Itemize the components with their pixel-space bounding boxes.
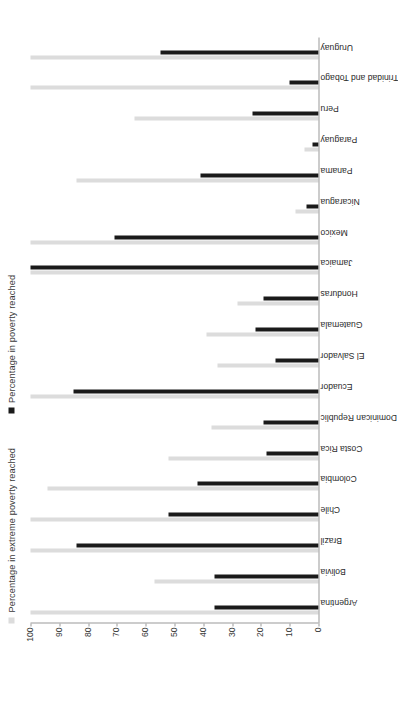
legend-swatch-poverty [8, 407, 14, 413]
value-tick-mark-30 [232, 623, 233, 626]
bar-poverty [197, 481, 318, 485]
category-label: Guatemala [320, 319, 362, 329]
value-tick-mark-70 [116, 623, 117, 626]
value-tick-10: 10 [283, 627, 293, 649]
bar-poverty [252, 111, 318, 115]
bar-group [30, 504, 318, 521]
bar-group [30, 42, 318, 59]
chart-legend: Percentage in extreme poverty reachedPer… [0, 0, 22, 709]
bar-group [30, 72, 318, 89]
category-label: El Salvador [320, 350, 364, 360]
category-label: Nicaragua [320, 196, 359, 206]
bar-poverty [266, 451, 318, 455]
value-tick-100: 100 [24, 627, 34, 649]
bar-poverty [114, 235, 318, 239]
value-tick-70: 70 [110, 627, 120, 649]
value-tick-50: 50 [168, 627, 178, 649]
bar-group [30, 103, 318, 120]
legend-label-poverty: Percentage in poverty reached [6, 274, 16, 402]
bar-group [30, 319, 318, 336]
bar-group [30, 473, 318, 490]
category-label: Colombia [320, 473, 356, 483]
bar-extreme-poverty [30, 55, 318, 59]
bar-extreme-poverty [154, 579, 318, 583]
bar-extreme-poverty [30, 548, 318, 552]
bar-poverty [312, 142, 318, 146]
category-label: Dominican Republic [320, 412, 396, 422]
bar-poverty [255, 327, 318, 331]
bar-poverty [275, 358, 318, 362]
bar-extreme-poverty [30, 240, 318, 244]
category-label: Mexico [320, 227, 347, 237]
value-tick-0: 0 [312, 627, 322, 649]
bar-poverty [200, 173, 318, 177]
legend-item-extreme: Percentage in extreme poverty reached [6, 447, 16, 623]
value-tick-mark-90 [59, 623, 60, 626]
category-label: Panama [320, 165, 352, 175]
category-label: Chile [320, 504, 340, 514]
bar-extreme-poverty [304, 147, 318, 151]
category-label: Argentina [320, 597, 357, 607]
bar-group [30, 196, 318, 213]
bar-poverty [73, 389, 318, 393]
bar-extreme-poverty [76, 178, 318, 182]
value-tick-mark-80 [88, 623, 89, 626]
value-tick-80: 80 [82, 627, 92, 649]
value-tick-mark-50 [174, 623, 175, 626]
bar-extreme-poverty [30, 610, 318, 614]
value-tick-mark-40 [203, 623, 204, 626]
value-tick-20: 20 [254, 627, 264, 649]
bar-extreme-poverty [30, 270, 318, 274]
category-label: Bolivia [320, 566, 345, 576]
bar-extreme-poverty [47, 486, 318, 490]
bar-poverty [306, 204, 318, 208]
category-label: Costa Rica [320, 443, 362, 453]
bar-group [30, 258, 318, 275]
bar-poverty [30, 265, 318, 269]
value-tick-30: 30 [226, 627, 236, 649]
bar-poverty [289, 80, 318, 84]
category-axis-line [318, 37, 319, 623]
bar-group [30, 165, 318, 182]
bar-group [30, 350, 318, 367]
value-tick-mark-60 [145, 623, 146, 626]
category-label: Honduras [320, 288, 357, 298]
category-label: Uruguay [320, 42, 352, 52]
value-tick-mark-10 [289, 623, 290, 626]
bar-extreme-poverty [206, 332, 318, 336]
value-tick-60: 60 [139, 627, 149, 649]
bar-extreme-poverty [217, 363, 318, 367]
bar-group [30, 535, 318, 552]
legend-item-poverty: Percentage in poverty reached [6, 274, 16, 413]
category-label: Jamaica [320, 257, 352, 267]
legend-swatch-extreme [8, 617, 14, 623]
bar-group [30, 381, 318, 398]
legend-label-extreme: Percentage in extreme poverty reached [6, 447, 16, 612]
category-label: Brazil [320, 535, 342, 545]
bar-group [30, 412, 318, 429]
value-tick-mark-100 [30, 623, 31, 626]
category-label: Trinidad and Tobago [320, 72, 398, 82]
category-label: Paraguay [320, 134, 357, 144]
value-tick-90: 90 [53, 627, 63, 649]
bar-poverty [214, 574, 318, 578]
bar-extreme-poverty [237, 301, 318, 305]
bar-extreme-poverty [168, 456, 318, 460]
plot-area: 0102030405060708090100 [30, 37, 318, 623]
bar-extreme-poverty [30, 85, 318, 89]
bar-extreme-poverty [30, 517, 318, 521]
bar-group [30, 597, 318, 614]
bar-poverty [168, 512, 318, 516]
bar-extreme-poverty [295, 209, 318, 213]
bar-group [30, 443, 318, 460]
bar-poverty [214, 605, 318, 609]
bar-poverty [160, 50, 318, 54]
value-tick-40: 40 [197, 627, 207, 649]
bar-extreme-poverty [134, 116, 318, 120]
bar-extreme-poverty [30, 394, 318, 398]
bar-group [30, 288, 318, 305]
bar-poverty [263, 296, 318, 300]
bar-extreme-poverty [211, 425, 318, 429]
